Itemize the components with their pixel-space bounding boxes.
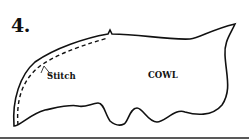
- pattern-outline-svg: [0, 0, 249, 140]
- stitch-label: Stitch: [47, 71, 76, 81]
- stitch-line: [18, 38, 108, 125]
- cowl-pattern-diagram: 4. Stitch COWL: [0, 0, 249, 140]
- step-number: 4.: [11, 14, 30, 36]
- cowl-label: COWL: [148, 70, 178, 80]
